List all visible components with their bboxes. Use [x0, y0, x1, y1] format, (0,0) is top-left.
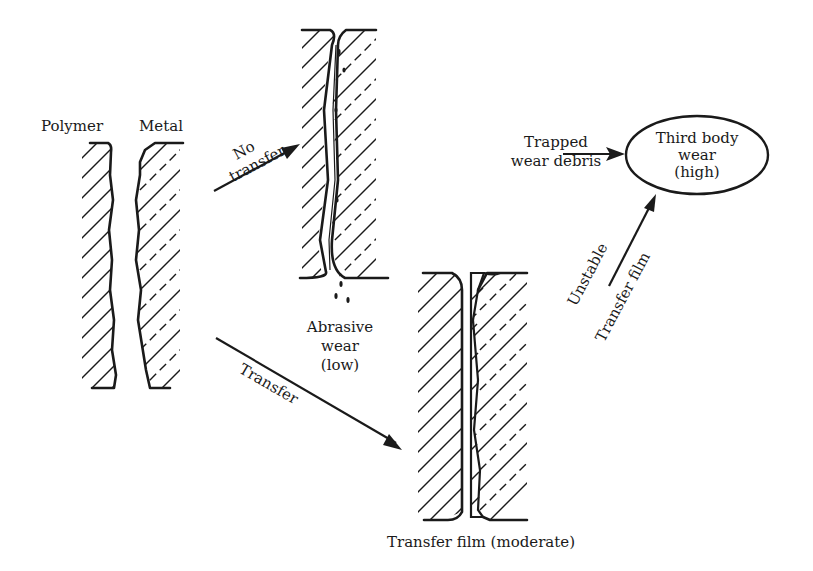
arrowhead-icon	[644, 194, 656, 212]
transfer-film-layer	[471, 273, 484, 517]
unstable-transfer-film-transition: Unstable Transfer film	[564, 194, 656, 345]
abrasive-wear-label-line3: (low)	[321, 356, 359, 374]
metal-label: Metal	[139, 117, 183, 135]
transfer-film-label: Transfer film (moderate)	[387, 533, 575, 551]
abrasive-wear-label-line2: wear	[321, 337, 360, 355]
transfer-label: Transfer	[236, 360, 302, 409]
unstable-label: Unstable	[564, 240, 612, 309]
third-body-wear-label-line1: Third body	[656, 129, 739, 147]
polymer-label: Polymer	[41, 117, 104, 135]
abrasive-wear-label-line1: Abrasive	[306, 318, 374, 336]
initial-state-group: Polymer Metal	[41, 110, 200, 440]
metal-block	[130, 110, 200, 440]
transfer-arrow	[216, 338, 396, 443]
third-body-wear-label-line2: wear	[678, 146, 717, 164]
third-body-wear-state: Third body wear (high)	[626, 116, 768, 194]
third-body-wear-label-line3: (high)	[674, 163, 719, 181]
transfer-film-state: Transfer film (moderate)	[387, 230, 575, 560]
transfer-transition: Transfer	[216, 338, 402, 450]
wear-mechanism-diagram: Polymer Metal	[0, 0, 813, 571]
no-transfer-transition: No transfer	[214, 125, 300, 191]
abrasive-wear-state: Abrasive wear (low)	[290, 0, 395, 374]
polymer-block	[60, 110, 130, 440]
trapped-debris-source: Trapped wear debris	[511, 133, 625, 170]
trapped-debris-label-line1: Trapped	[524, 133, 588, 151]
